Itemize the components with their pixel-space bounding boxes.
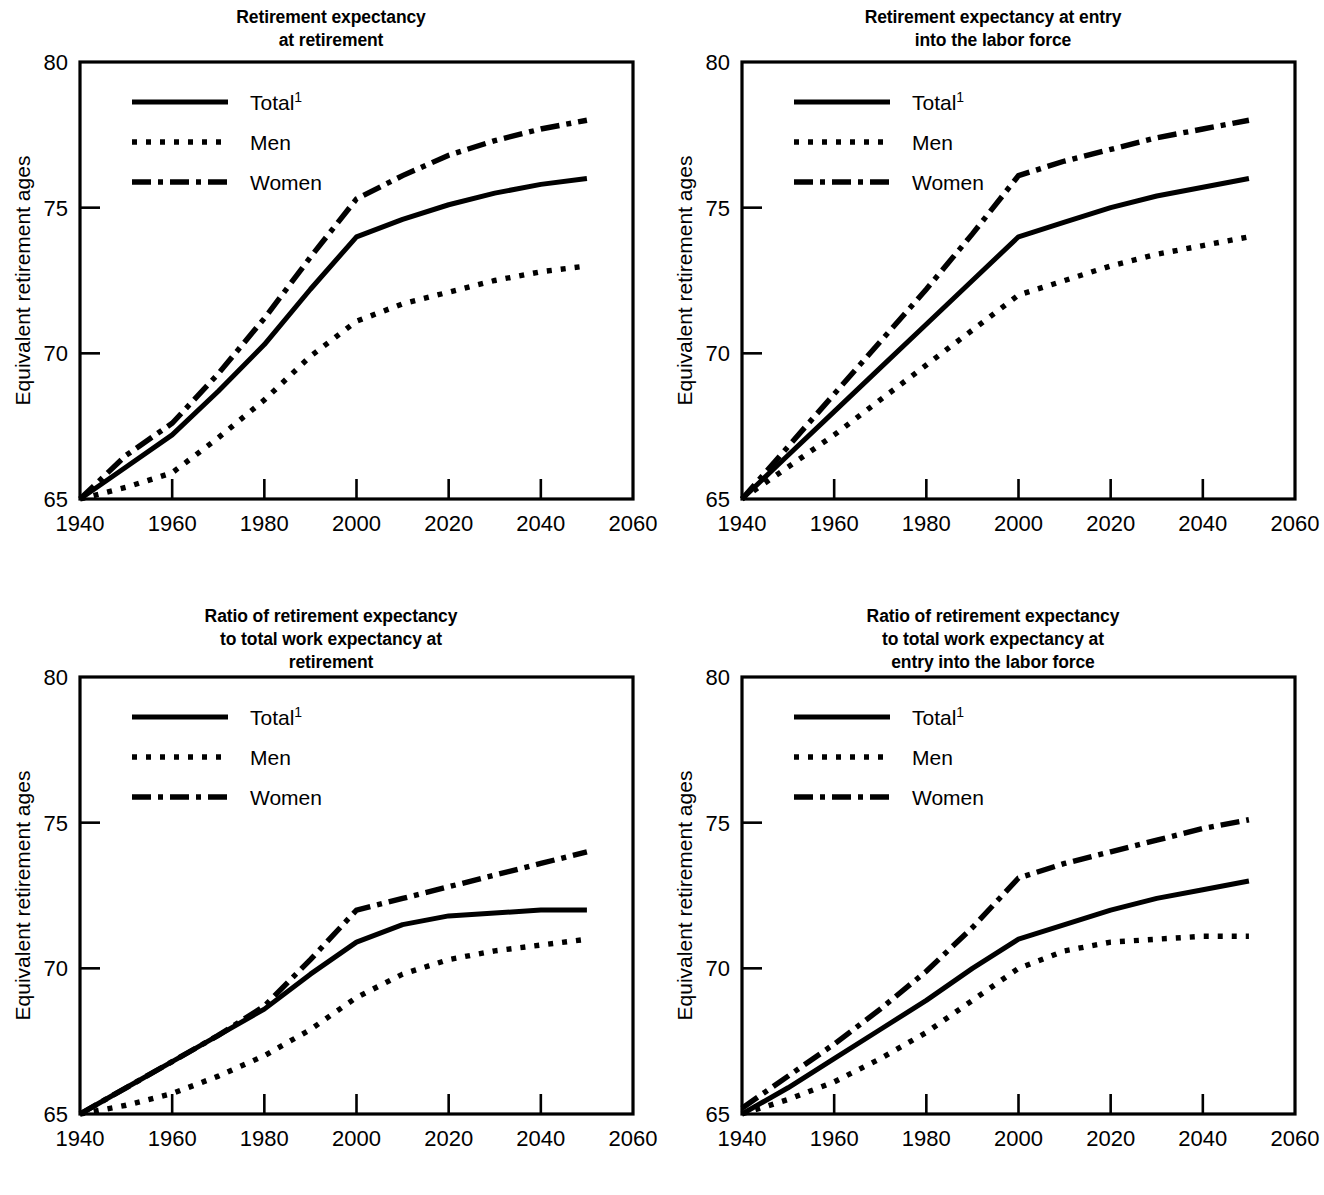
legend-superscript: 1 (956, 704, 964, 720)
series-line-total (80, 179, 587, 499)
x-tick-label: 1960 (810, 511, 859, 536)
x-tick-label: 2020 (1086, 1126, 1135, 1151)
legend-superscript: 1 (294, 89, 302, 105)
x-tick-label: 2060 (1271, 1126, 1320, 1151)
figure-grid: Retirement expectancy at retirement 6570… (0, 0, 1324, 1195)
legend-label-total: Total1 (912, 89, 964, 114)
series-line-men (80, 266, 587, 499)
series-line-women (742, 120, 1249, 499)
panel-retirement-expectancy-at-retirement: Retirement expectancy at retirement 6570… (0, 0, 662, 595)
legend-label-total: Total1 (250, 89, 302, 114)
legend-superscript: 1 (294, 704, 302, 720)
x-tick-label: 1940 (718, 1126, 767, 1151)
x-tick-label: 2000 (994, 1126, 1043, 1151)
chart-plot-area: 657075801940196019802000202020402060Year… (0, 0, 662, 560)
y-tick-label: 75 (706, 811, 730, 836)
x-tick-label: 2020 (424, 511, 473, 536)
panel-ratio-at-entry: Ratio of retirement expectancy to total … (662, 595, 1324, 1195)
y-tick-label: 65 (706, 487, 730, 512)
plot-frame (80, 677, 633, 1114)
legend-label-men: Men (912, 746, 953, 769)
series-line-women (742, 820, 1249, 1108)
legend-label-women: Women (912, 786, 984, 809)
y-tick-label: 65 (706, 1102, 730, 1127)
series-line-men (80, 939, 587, 1114)
x-tick-label: 1960 (148, 511, 197, 536)
y-tick-label: 70 (706, 956, 730, 981)
y-tick-label: 80 (706, 665, 730, 690)
legend-label-men: Men (912, 131, 953, 154)
chart-plot-area: 657075801940196019802000202020402060Year… (662, 0, 1324, 560)
y-axis-title: Equivalent retirement ages (673, 771, 696, 1021)
chart-plot-area: 657075801940196019802000202020402060Year… (662, 595, 1324, 1155)
line-chart-svg: 657075801940196019802000202020402060Year… (0, 595, 662, 1155)
x-tick-label: 2020 (1086, 511, 1135, 536)
x-tick-label: 2060 (609, 1126, 658, 1151)
y-axis-title: Equivalent retirement ages (11, 156, 34, 406)
x-tick-label: 2000 (332, 1126, 381, 1151)
line-chart-svg: 657075801940196019802000202020402060Year… (662, 595, 1324, 1155)
y-tick-label: 75 (706, 196, 730, 221)
x-tick-label: 2040 (516, 1126, 565, 1151)
series-line-men (742, 936, 1249, 1114)
x-tick-label: 2000 (994, 511, 1043, 536)
panel-retirement-expectancy-at-entry: Retirement expectancy at entry into the … (662, 0, 1324, 595)
legend-label-women: Women (250, 171, 322, 194)
y-tick-label: 80 (706, 50, 730, 75)
series-line-total (742, 179, 1249, 499)
y-tick-label: 70 (44, 956, 68, 981)
x-tick-label: 1960 (148, 1126, 197, 1151)
y-tick-label: 70 (44, 341, 68, 366)
series-line-women (80, 120, 587, 499)
y-tick-label: 65 (44, 487, 68, 512)
chart-plot-area: 657075801940196019802000202020402060Year… (0, 595, 662, 1155)
y-tick-label: 65 (44, 1102, 68, 1127)
series-line-total (742, 881, 1249, 1114)
line-chart-svg: 657075801940196019802000202020402060Year… (662, 0, 1324, 560)
y-tick-label: 70 (706, 341, 730, 366)
x-tick-label: 1940 (56, 511, 105, 536)
y-axis-title: Equivalent retirement ages (11, 771, 34, 1021)
y-tick-label: 75 (44, 196, 68, 221)
panel-ratio-at-retirement: Ratio of retirement expectancy to total … (0, 595, 662, 1195)
y-axis-title: Equivalent retirement ages (673, 156, 696, 406)
x-tick-label: 1980 (902, 1126, 951, 1151)
x-axis-title: Year (335, 556, 377, 560)
x-tick-label: 1960 (810, 1126, 859, 1151)
legend-label-men: Men (250, 746, 291, 769)
legend-superscript: 1 (956, 89, 964, 105)
legend-label-total: Total1 (912, 704, 964, 729)
y-tick-label: 80 (44, 665, 68, 690)
x-tick-label: 2060 (1271, 511, 1320, 536)
x-tick-label: 2040 (1178, 511, 1227, 536)
legend-label-women: Women (250, 786, 322, 809)
x-tick-label: 2000 (332, 511, 381, 536)
x-tick-label: 2040 (1178, 1126, 1227, 1151)
series-line-women (80, 852, 587, 1114)
x-tick-label: 1980 (902, 511, 951, 536)
legend-label-women: Women (912, 171, 984, 194)
line-chart-svg: 657075801940196019802000202020402060Year… (0, 0, 662, 560)
legend-label-men: Men (250, 131, 291, 154)
series-line-total (80, 910, 587, 1114)
y-tick-label: 80 (44, 50, 68, 75)
x-tick-label: 1940 (718, 511, 767, 536)
x-tick-label: 1980 (240, 511, 289, 536)
x-tick-label: 2040 (516, 511, 565, 536)
series-line-men (742, 237, 1249, 499)
x-tick-label: 1940 (56, 1126, 105, 1151)
x-tick-label: 2020 (424, 1126, 473, 1151)
x-tick-label: 2060 (609, 511, 658, 536)
y-tick-label: 75 (44, 811, 68, 836)
x-tick-label: 1980 (240, 1126, 289, 1151)
x-axis-title: Year (997, 556, 1039, 560)
legend-label-total: Total1 (250, 704, 302, 729)
